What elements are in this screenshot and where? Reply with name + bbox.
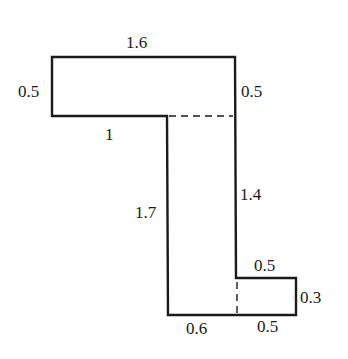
label-right-top-height: 0.5	[241, 82, 262, 101]
label-inner-vertical-height: 1.7	[135, 203, 157, 222]
label-bottom-right-width: 0.5	[257, 317, 278, 336]
label-left-top-height: 0.5	[18, 82, 39, 101]
label-inner-ledge-width: 1	[105, 125, 114, 144]
label-right-vertical-height: 1.4	[240, 185, 262, 204]
label-step-top-width: 0.5	[254, 256, 275, 275]
label-bottom-left-width: 0.6	[186, 319, 207, 338]
composite-shape-diagram: 1.6 0.5 0.5 1 1.7 1.4 0.5 0.3 0.6 0.5	[0, 0, 348, 359]
label-step-height: 0.3	[300, 288, 321, 307]
label-top-width: 1.6	[126, 33, 147, 52]
